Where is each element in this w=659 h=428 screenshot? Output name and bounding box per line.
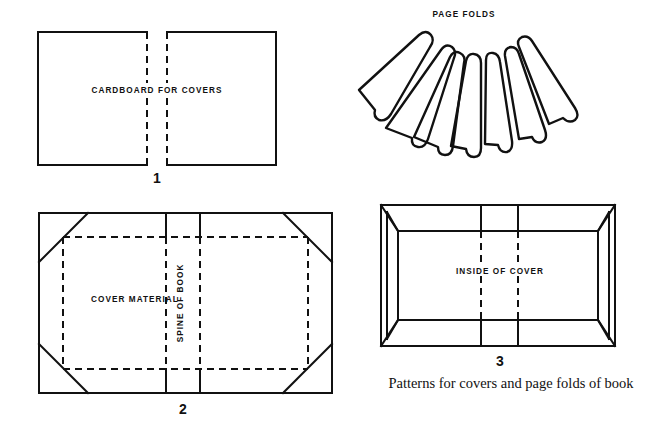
label-cover-material: COVER MATERIAL (91, 295, 179, 304)
side-flap-right-miter-bottom (598, 320, 609, 339)
label-spine-of-book: SPINE OF BOOK (176, 264, 185, 343)
panel-page-folds: PAGE FOLDS (359, 10, 578, 157)
side-flap-right-miter-top (598, 212, 609, 231)
right-board-solid-edges (167, 32, 276, 165)
label-inside-of-cover: INSIDE OF COVER (456, 267, 544, 276)
side-flap-left-miter-top (387, 212, 398, 231)
label-page-folds: PAGE FOLDS (432, 10, 495, 19)
figure-number-2: 2 (179, 401, 187, 417)
figure-number-3: 3 (496, 353, 504, 369)
label-cardboard-for-covers: CARDBOARD FOR COVERS (91, 86, 222, 95)
page-fold-2 (386, 46, 455, 148)
figure-caption: Patterns for covers and page folds of bo… (388, 375, 634, 391)
patterns-diagram: CARDBOARD FOR COVERS 1 PAGE FOLDS (0, 0, 659, 428)
panel-cardboard-for-covers: CARDBOARD FOR COVERS 1 (38, 32, 276, 186)
page-fold-4 (451, 54, 481, 157)
figure-sheet: CARDBOARD FOR COVERS 1 PAGE FOLDS (0, 0, 659, 428)
left-board-solid-edges (38, 32, 147, 165)
panel-inside-of-cover: INSIDE OF COVER 3 (381, 205, 615, 369)
side-flap-left-miter-bottom (387, 320, 398, 339)
cover-material-outline (39, 213, 332, 393)
figure-number-1: 1 (153, 170, 161, 186)
panel-cover-material: COVER MATERIAL SPINE OF BOOK 2 (39, 213, 332, 417)
